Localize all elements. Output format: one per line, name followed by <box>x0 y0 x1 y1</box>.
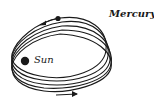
mercury-label: Mercury <box>109 8 154 19</box>
sun-icon <box>21 57 29 65</box>
orbits <box>12 17 112 91</box>
bottom-arrow-head-icon <box>72 91 78 97</box>
top-arrow-head-icon <box>40 21 46 26</box>
sun-label: Sun <box>34 54 54 65</box>
mercury-planet-icon <box>55 16 60 21</box>
